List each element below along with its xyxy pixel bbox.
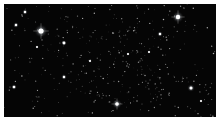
sky-background bbox=[4, 4, 216, 117]
star-field-canvas bbox=[4, 4, 216, 117]
star-field-image bbox=[4, 4, 216, 117]
